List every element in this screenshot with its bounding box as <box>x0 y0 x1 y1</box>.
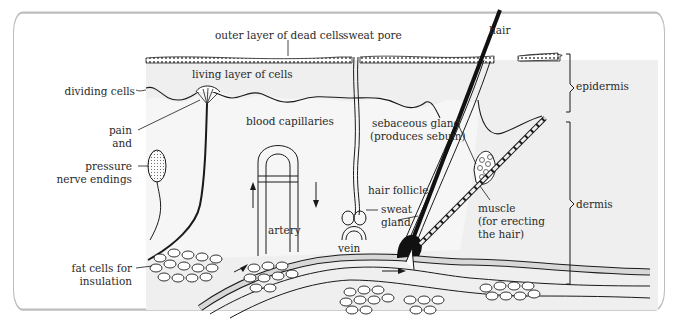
label-sweat-gland-line1: sweat <box>381 203 412 215</box>
label-muscle-line2: (for erecting <box>478 215 545 227</box>
label-muscle-line1: muscle <box>478 202 516 214</box>
label-sweat-gland-line2: gland <box>381 216 411 228</box>
label-living-layer: living layer of cells <box>192 68 293 80</box>
label-dividing-cells: dividing cells <box>60 85 135 97</box>
label-vein: vein <box>338 242 360 254</box>
label-pain-line1: pain <box>60 124 132 136</box>
label-fat-cells-line2: insulation <box>40 275 132 287</box>
label-sebaceous-line1: sebaceous gland <box>372 117 460 129</box>
label-pain-line2: and <box>60 137 132 149</box>
label-blood-capillaries: blood capillaries <box>246 115 334 127</box>
label-epidermis: epidermis <box>576 80 629 92</box>
pressure-receptor <box>148 150 166 182</box>
label-artery: artery <box>268 224 301 236</box>
label-muscle-line3: the hair) <box>478 228 524 240</box>
label-fat-cells-line1: fat cells for <box>40 262 132 274</box>
label-dermis: dermis <box>576 198 613 210</box>
label-hair: hair <box>489 24 510 36</box>
label-pressure-line2: nerve endings <box>40 173 132 185</box>
outer-dead-cell-layer <box>146 57 352 63</box>
skin-diagram: outer layer of dead cells sweat pore hai… <box>0 0 681 323</box>
label-sebaceous-line2: (produces sebum) <box>370 130 466 142</box>
label-outer-layer: outer layer of dead cells <box>215 29 344 41</box>
label-hair-follicle: hair follicle <box>368 184 428 196</box>
label-sweat-pore: sweat pore <box>343 29 402 41</box>
label-pressure-line1: pressure <box>40 160 132 172</box>
